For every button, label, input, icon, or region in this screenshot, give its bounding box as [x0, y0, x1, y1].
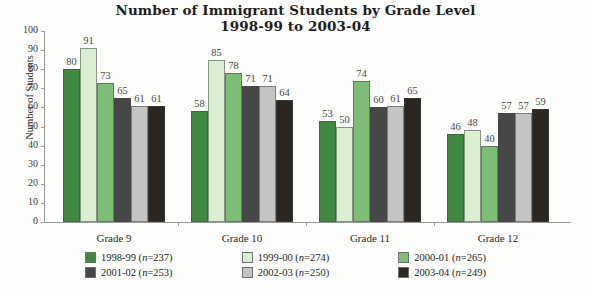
legend-swatch	[398, 267, 409, 278]
legend-swatch	[85, 267, 96, 278]
bar-value-label: 50	[339, 114, 350, 125]
bar-value-label: 61	[390, 93, 401, 104]
bar-group: 588578717164Grade 10	[191, 31, 293, 222]
bar[interactable]: 65	[114, 98, 131, 222]
x-axis-category-label: Grade 11	[319, 232, 421, 244]
bar-value-label: 61	[134, 93, 145, 104]
legend-item[interactable]: 2001-02 (n=253)	[85, 267, 242, 278]
bar-value-label: 53	[322, 108, 333, 119]
legend-label: 2000-01 (n=265)	[414, 252, 486, 263]
bar[interactable]: 71	[242, 86, 259, 222]
bar-group: 535074606165Grade 11	[319, 31, 421, 222]
y-axis-tick-mark	[41, 69, 45, 70]
bar[interactable]: 60	[370, 107, 387, 222]
bar[interactable]: 71	[259, 86, 276, 222]
x-axis-category-label: Grade 9	[63, 232, 165, 244]
bar[interactable]: 85	[208, 60, 225, 222]
y-axis-tick-mark	[41, 165, 45, 166]
bar[interactable]: 91	[80, 48, 97, 222]
y-axis-tick-mark	[41, 184, 45, 185]
y-axis-tick-mark	[41, 222, 45, 223]
bar-value-label: 71	[245, 73, 256, 84]
x-axis-tick-mark	[178, 222, 179, 226]
y-axis-tick-mark	[41, 107, 45, 108]
legend-label: 1998-99 (n=237)	[101, 252, 173, 263]
y-axis-tick-mark	[41, 146, 45, 147]
x-axis-tick-mark	[434, 222, 435, 226]
legend-label: 2001-02 (n=253)	[101, 267, 173, 278]
legend-label: 1999-00 (n=274)	[258, 252, 330, 263]
bar[interactable]: 46	[447, 134, 464, 222]
bar-value-label: 59	[535, 96, 546, 107]
y-axis-tick-label: 50	[28, 120, 38, 131]
bar-value-label: 78	[228, 60, 239, 71]
x-axis-tick-mark	[306, 222, 307, 226]
y-axis-tick-label: 100	[23, 24, 38, 35]
bar-group-bars: 588578717164	[191, 31, 293, 222]
bar-value-label: 71	[262, 73, 273, 84]
y-axis-tick-label: 10	[28, 196, 38, 207]
bar[interactable]: 40	[481, 146, 498, 222]
bar[interactable]: 53	[319, 121, 336, 222]
bar[interactable]: 64	[276, 100, 293, 222]
bar-value-label: 91	[83, 35, 94, 46]
bar-group: 809173656161Grade 9	[63, 31, 165, 222]
bar-value-label: 73	[100, 70, 111, 81]
bar[interactable]: 57	[498, 113, 515, 222]
bar[interactable]: 59	[532, 109, 549, 222]
legend-row: 2001-02 (n=253)2002-03 (n=250)2003-04 (n…	[85, 265, 555, 280]
legend-item[interactable]: 2002-03 (n=250)	[242, 267, 399, 278]
y-axis-tick-mark	[41, 203, 45, 204]
bar[interactable]: 57	[515, 113, 532, 222]
legend-swatch	[242, 267, 253, 278]
bar-group-bars: 809173656161	[63, 31, 165, 222]
y-axis-tick-label: 80	[28, 62, 38, 73]
bar-value-label: 58	[194, 98, 205, 109]
chart-page: Number of Immigrant Students by Grade Le…	[0, 0, 591, 289]
bar[interactable]: 58	[191, 111, 208, 222]
bar[interactable]: 65	[404, 98, 421, 222]
bar-value-label: 57	[518, 100, 529, 111]
bar-group-bars: 464840575759	[447, 31, 549, 222]
x-axis-category-label: Grade 12	[447, 232, 549, 244]
x-axis-category-label: Grade 10	[191, 232, 293, 244]
bar-value-label: 40	[484, 133, 495, 144]
y-axis-tick-label: 70	[28, 81, 38, 92]
bar-value-label: 57	[501, 100, 512, 111]
bar[interactable]: 73	[97, 83, 114, 222]
legend-swatch	[398, 252, 409, 263]
bar-group-bars: 535074606165	[319, 31, 421, 222]
legend-label: 2002-03 (n=250)	[258, 267, 330, 278]
bar-value-label: 65	[407, 85, 418, 96]
y-axis-tick-label: 40	[28, 139, 38, 150]
plot-wrapper: Number of Students 010203040506070809010…	[0, 0, 591, 245]
plot-area: 0102030405060708090100 809173656161Grade…	[44, 31, 571, 223]
bar-value-label: 80	[66, 56, 77, 67]
y-axis-tick-mark	[41, 50, 45, 51]
bar-value-label: 65	[117, 85, 128, 96]
legend-item[interactable]: 1998-99 (n=237)	[85, 252, 242, 263]
y-axis-tick-mark	[41, 127, 45, 128]
y-axis-tick-label: 90	[28, 43, 38, 54]
bar[interactable]: 78	[225, 73, 242, 222]
legend-swatch	[242, 252, 253, 263]
bar-value-label: 60	[373, 94, 384, 105]
legend-item[interactable]: 1999-00 (n=274)	[242, 252, 399, 263]
bar[interactable]: 48	[464, 130, 481, 222]
bar[interactable]: 50	[336, 127, 353, 223]
bar[interactable]: 61	[131, 106, 148, 223]
bar[interactable]: 80	[63, 69, 80, 222]
y-axis-tick-label: 60	[28, 100, 38, 111]
bar-value-label: 48	[467, 117, 478, 128]
bar[interactable]: 61	[148, 106, 165, 223]
bar[interactable]: 74	[353, 81, 370, 222]
y-axis-tick-mark	[41, 88, 45, 89]
bar-group: 464840575759Grade 12	[447, 31, 549, 222]
bar-value-label: 46	[450, 121, 461, 132]
legend-item[interactable]: 2003-04 (n=249)	[398, 267, 555, 278]
bar-value-label: 61	[151, 93, 162, 104]
bar[interactable]: 61	[387, 106, 404, 223]
bar-value-label: 74	[356, 68, 367, 79]
legend-item[interactable]: 2000-01 (n=265)	[398, 252, 555, 263]
y-axis-tick-label: 0	[33, 215, 38, 226]
